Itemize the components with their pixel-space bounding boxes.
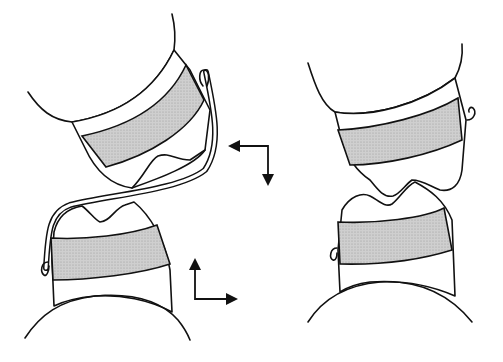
right-panel <box>308 44 475 322</box>
upper-tooth-right <box>308 44 475 196</box>
diagram-canvas <box>0 0 503 362</box>
lower-arrow <box>189 258 238 305</box>
left-panel <box>25 14 215 340</box>
upper-tooth-left <box>28 14 210 188</box>
dental-diagram <box>0 0 503 362</box>
upper-arrow <box>228 140 274 186</box>
lower-tooth-right <box>308 182 472 322</box>
